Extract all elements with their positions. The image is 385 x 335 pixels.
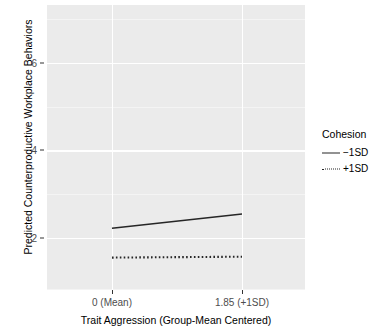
legend-key-dotted-line-icon bbox=[322, 161, 340, 176]
series-line-minus1sd bbox=[112, 214, 242, 228]
y-axis-title: Predicted Counterproductive Workplace Be… bbox=[22, 12, 34, 262]
y-tick-mark-4 bbox=[40, 150, 44, 151]
legend-item-minus1sd[interactable]: −1SD bbox=[322, 145, 385, 160]
legend-key-solid-line-icon bbox=[322, 145, 340, 160]
x-tick-label-0: 0 (Mean) bbox=[92, 297, 132, 308]
x-axis: 0 (Mean) 1.85 (+1SD) Trait Aggression (G… bbox=[47, 290, 305, 335]
legend: Cohesion −1SD +1SD bbox=[322, 128, 385, 177]
plot-panel bbox=[47, 5, 305, 290]
legend-label-plus1sd: +1SD bbox=[343, 163, 368, 174]
chart-figure: 6 4 2 Predicted Counterproductive Workpl… bbox=[0, 0, 385, 335]
series-line-plus1sd bbox=[112, 257, 242, 258]
x-tick-mark-1 bbox=[242, 290, 243, 294]
y-tick-mark-2 bbox=[40, 238, 44, 239]
series-layer bbox=[47, 5, 305, 290]
legend-label-minus1sd: −1SD bbox=[343, 147, 368, 158]
y-tick-mark-6 bbox=[40, 62, 44, 63]
legend-title: Cohesion bbox=[322, 128, 385, 140]
x-tick-label-1: 1.85 (+1SD) bbox=[215, 297, 269, 308]
y-axis: 6 4 2 Predicted Counterproductive Workpl… bbox=[0, 5, 47, 290]
x-axis-title: Trait Aggression (Group-Mean Centered) bbox=[47, 314, 305, 326]
legend-item-plus1sd[interactable]: +1SD bbox=[322, 161, 385, 176]
x-tick-mark-0 bbox=[112, 290, 113, 294]
